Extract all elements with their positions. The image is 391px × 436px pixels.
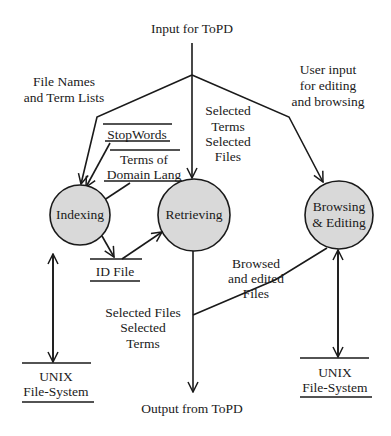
svg-text:for editing: for editing (300, 78, 357, 93)
unix-right-data-store: UNIX File-System (300, 358, 372, 397)
svg-text:and edited: and edited (228, 271, 284, 286)
svg-text:and Term Lists: and Term Lists (24, 90, 105, 105)
svg-text:Terms: Terms (211, 119, 245, 134)
svg-text:Files: Files (243, 286, 269, 301)
unix-left-data-store: UNIX File-System (22, 363, 94, 402)
indexing-to-id-file-flow (102, 236, 114, 257)
svg-text:Domain Lang: Domain Lang (107, 167, 182, 182)
svg-text:Browsing: Browsing (313, 199, 366, 214)
svg-text:StopWords: StopWords (107, 127, 167, 142)
svg-text:User input: User input (300, 62, 357, 77)
svg-text:Browsed: Browsed (232, 256, 280, 271)
svg-text:ID File: ID File (96, 264, 135, 279)
topd-data-flow-diagram: Input for ToPD File Names and Term Lists… (0, 0, 391, 436)
terms-data-store: Terms of Domain Lang (104, 150, 182, 182)
svg-text:& Editing: & Editing (312, 215, 366, 230)
svg-text:Terms of: Terms of (120, 152, 169, 167)
retrieving-process: Retrieving (158, 179, 230, 251)
browsed-files-label: Browsed and edited Files (228, 256, 284, 301)
indexing-process: Indexing (50, 185, 110, 245)
svg-text:and browsing: and browsing (291, 94, 364, 109)
svg-text:UNIX: UNIX (318, 365, 352, 380)
svg-text:Indexing: Indexing (56, 207, 104, 222)
svg-text:File Names: File Names (33, 74, 95, 89)
selected-output-label: Selected Files Selected Terms (105, 305, 180, 351)
file-names-label: File Names and Term Lists (24, 74, 105, 105)
user-input-label: User input for editing and browsing (291, 62, 364, 109)
svg-text:Terms: Terms (126, 336, 160, 351)
svg-text:Selected: Selected (205, 103, 251, 118)
browsing-editing-process: Browsing & Editing (305, 181, 373, 249)
svg-text:Selected: Selected (205, 134, 251, 149)
id-file-data-store: ID File (90, 259, 142, 281)
id-file-to-retrieving-flow (122, 232, 162, 259)
svg-text:File-System: File-System (23, 384, 89, 399)
output-label: Output from ToPD (141, 401, 243, 416)
svg-text:Files: Files (215, 149, 241, 164)
input-label: Input for ToPD (151, 21, 233, 36)
selected-terms-files-label: Selected Terms Selected Files (205, 103, 251, 164)
svg-text:UNIX: UNIX (39, 369, 73, 384)
svg-text:File-System: File-System (302, 380, 368, 395)
svg-text:Selected: Selected (120, 320, 166, 335)
stopwords-data-store: StopWords (103, 124, 172, 142)
svg-text:Selected Files: Selected Files (105, 305, 180, 320)
svg-text:Retrieving: Retrieving (166, 207, 223, 222)
